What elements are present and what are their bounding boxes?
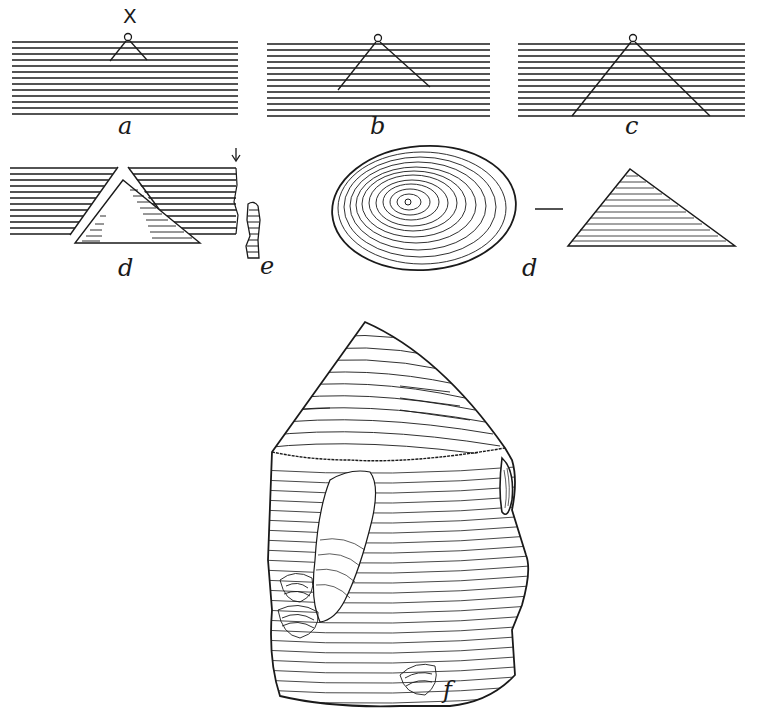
panel-c: c xyxy=(500,0,758,140)
panel-b: b xyxy=(250,0,500,140)
panel-label-b: b xyxy=(370,114,385,138)
panel-label-c: c xyxy=(625,114,638,138)
panel-d-section: d e xyxy=(0,140,290,280)
panel-d-views: d xyxy=(320,140,758,290)
panel-label-d-views: d xyxy=(522,256,537,280)
flint-nodule-drawing xyxy=(250,310,540,717)
panel-label-a: a xyxy=(118,114,132,138)
panel-label-d-section: d xyxy=(118,256,133,280)
panel-f: f xyxy=(250,310,540,717)
panel-a: X a xyxy=(0,0,250,140)
cone-top-view xyxy=(328,140,520,276)
panel-d-views-drawing xyxy=(320,140,758,290)
panel-label-f: f xyxy=(443,678,452,702)
panel-label-e: e xyxy=(260,254,274,278)
cone-side-view xyxy=(568,169,735,246)
panel-d-section-drawing xyxy=(0,140,290,280)
